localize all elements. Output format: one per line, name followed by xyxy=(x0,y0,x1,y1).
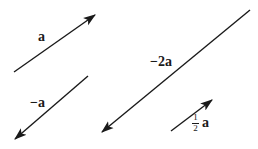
fraction-one-half: 1 2 xyxy=(192,113,199,134)
vector-arrow-a xyxy=(14,15,95,72)
vector-diagram: a −a −2a 1 2 a xyxy=(0,0,258,149)
vector-arrows-svg xyxy=(0,0,258,149)
fraction-vector-symbol: a xyxy=(202,116,209,130)
vector-label-half-a: 1 2 a xyxy=(192,113,209,134)
vector-arrow-neg-a xyxy=(15,76,88,139)
fraction-numerator: 1 xyxy=(192,113,199,122)
vector-label-neg-2a: −2a xyxy=(150,55,172,69)
vector-label-neg-a: −a xyxy=(30,96,45,110)
vector-label-a: a xyxy=(38,30,45,44)
fraction-denominator: 2 xyxy=(192,124,199,133)
vector-arrow-neg-2a xyxy=(102,10,250,132)
